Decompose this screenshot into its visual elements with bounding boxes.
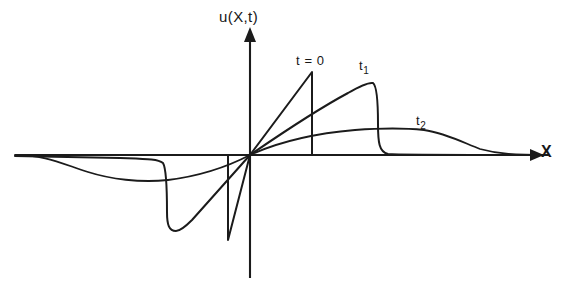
annotation-t1-subscript: 1: [363, 65, 369, 76]
annotation-t2-subscript: 2: [420, 120, 426, 131]
annotation-t0: t = 0: [296, 53, 325, 68]
annotation-t2: t2: [416, 113, 426, 131]
y-axis-label: u(X,t): [219, 8, 258, 25]
figure-canvas: u(X,t) X t = 0 t1 t2: [0, 0, 563, 289]
y-axis-arrow-icon: [244, 27, 256, 42]
plot-svg: [0, 0, 563, 289]
annotation-t1: t1: [359, 58, 369, 76]
x-axis-label: X: [541, 143, 552, 161]
curve-t1: [15, 83, 548, 231]
